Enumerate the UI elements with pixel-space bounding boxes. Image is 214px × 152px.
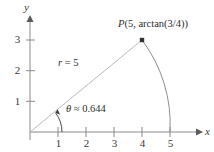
angle-label: θ ≈ 0.644 — [66, 104, 106, 115]
x-tick-label-3: 3 — [110, 138, 119, 149]
y-axis-arrowhead — [27, 15, 34, 22]
x-tick-label-2: 2 — [82, 138, 91, 149]
angle-value: ≈ 0.644 — [74, 103, 106, 114]
radius-symbol: r — [58, 57, 62, 68]
x-tick-label-5: 5 — [166, 138, 175, 149]
angle-arc — [56, 113, 63, 132]
radius-value: = 5 — [65, 57, 79, 68]
y-tick-label-1: 1 — [13, 96, 22, 107]
y-axis-label: y — [24, 2, 29, 13]
x-tick-label-4: 4 — [138, 138, 147, 149]
x-axis-arrowhead — [196, 129, 203, 136]
polar-coordinate-figure: y x 1 2 3 4 5 1 2 3 P(5, arctan(3/4)) r … — [0, 0, 214, 152]
x-tick-label-1: 1 — [54, 138, 63, 149]
y-tick-label-2: 2 — [13, 65, 22, 76]
radius-label: r = 5 — [58, 58, 79, 69]
y-tick-label-3: 3 — [13, 34, 22, 45]
radius-arc — [142, 40, 170, 132]
point-p-label: P(5, arctan(3/4)) — [118, 19, 188, 30]
x-axis-label: x — [205, 126, 210, 137]
point-p-marker — [140, 38, 144, 42]
angle-symbol: θ — [66, 103, 71, 114]
point-p-coords: (5, arctan(3/4)) — [124, 18, 188, 29]
radius-ray — [30, 40, 142, 132]
